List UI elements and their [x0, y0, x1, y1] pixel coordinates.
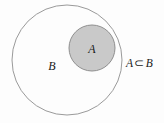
relation-right-operand: B	[146, 57, 153, 69]
venn-diagram-figure: B A A⊂B	[0, 0, 164, 123]
subset-operator-icon: ⊂	[133, 57, 145, 69]
set-b-label: B	[48, 59, 56, 73]
subset-relation-label: A⊂B	[126, 56, 153, 70]
set-a-label: A	[87, 42, 96, 56]
